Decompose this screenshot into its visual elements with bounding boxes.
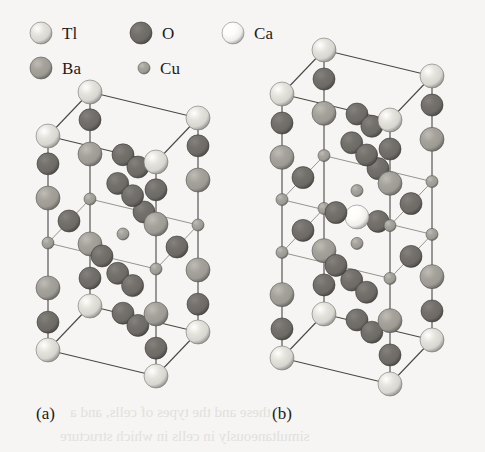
atom-tl (378, 372, 402, 396)
atom-ba (78, 142, 102, 166)
atom-o-apical (421, 94, 443, 116)
atom-cu (150, 263, 162, 275)
atom-tl (36, 338, 60, 362)
atom-tl (186, 320, 210, 344)
atom-cu (384, 272, 396, 284)
atom-o-apical (379, 344, 401, 366)
atom-ca (345, 205, 369, 229)
atom-o-apical (37, 153, 59, 175)
atom-o-plane (325, 254, 347, 276)
atom-o-apical (379, 138, 401, 160)
atom-cu (42, 237, 54, 249)
atom-tl (420, 328, 444, 352)
atom-tl (186, 106, 210, 130)
atom-cu (276, 194, 288, 206)
atom-o-plane (400, 245, 422, 267)
crystal-structure-figure: TlOCaBaCu (a)(b) these and the types of … (0, 0, 485, 452)
atom-o-plane (292, 219, 314, 241)
bleed-text-line: these and the types of cells, and a (70, 404, 271, 421)
atom-o-apical (187, 135, 209, 157)
atom-tl (312, 302, 336, 326)
atom-cu (318, 150, 330, 162)
legend-item-o: O (162, 22, 174, 44)
atom-o-plane (325, 202, 347, 224)
legend-label-cu: Cu (160, 60, 180, 77)
atom-o-cluster (356, 144, 378, 166)
atom-cu-center (351, 237, 363, 249)
atom-ba (36, 186, 60, 210)
atom-tl (144, 364, 168, 388)
atom-ba (420, 127, 444, 151)
cell-edge-face (48, 350, 156, 376)
atom-tl (270, 346, 294, 370)
atom-o-apical (271, 318, 293, 340)
legend-item-cu: Cu (160, 57, 180, 79)
atom-ba (378, 171, 402, 195)
atom-o-apical (421, 300, 443, 322)
atom-o-plane (292, 167, 314, 189)
legend-label-ba: Ba (62, 60, 81, 77)
atom-tl (378, 108, 402, 132)
structure-a (36, 80, 210, 388)
legend-label-ca: Ca (254, 25, 273, 42)
atom-o-apical (37, 311, 59, 333)
atom-cu (192, 219, 204, 231)
atom-o-plane (58, 210, 80, 232)
legend-item-ca: Ca (254, 22, 273, 44)
atom-cu (84, 193, 96, 205)
atom-ba (270, 283, 294, 307)
atom-o-apical (145, 337, 167, 359)
atom-ba (270, 145, 294, 169)
atom-cu-center (351, 185, 363, 197)
atom-o-apical (145, 179, 167, 201)
atom-ba (378, 309, 402, 333)
atom-o-cluster (122, 275, 144, 297)
atom-ba (36, 276, 60, 300)
cell-edge-face (90, 92, 198, 118)
legend-item-tl: Tl (62, 22, 78, 44)
atom-ba (186, 168, 210, 192)
cell-edge-face (282, 358, 390, 384)
panel-caption-b: (b) (272, 404, 292, 424)
atom-cu-center (117, 228, 129, 240)
atom-cu (276, 246, 288, 258)
atom-cu (426, 228, 438, 240)
atom-o-apical (79, 109, 101, 131)
atom-tl (36, 124, 60, 148)
structure-b (270, 38, 444, 396)
atom-o-plane (166, 236, 188, 258)
atom-ba (186, 258, 210, 282)
atom-tl (78, 294, 102, 318)
atom-tl (144, 150, 168, 174)
bleed-text-line: simultaneously in cells in which structu… (60, 428, 310, 445)
legend-item-ba: Ba (62, 57, 81, 79)
atom-o-apical (187, 293, 209, 315)
atom-o-apical (79, 267, 101, 289)
atom-ba (144, 302, 168, 326)
atom-cu (426, 176, 438, 188)
atom-o-cluster (122, 185, 144, 207)
atom-ba (420, 265, 444, 289)
atom-ba (312, 101, 336, 125)
legend-label-o: O (162, 25, 174, 42)
atom-o-cluster (356, 281, 378, 303)
panel-caption-a: (a) (36, 404, 55, 424)
atom-cu (384, 220, 396, 232)
atom-ba (144, 212, 168, 236)
atom-o-plane (91, 245, 113, 267)
atom-o-plane (400, 193, 422, 215)
legend-label-tl: Tl (62, 25, 78, 42)
atom-o-apical (271, 112, 293, 134)
atom-o-apical (313, 274, 335, 296)
